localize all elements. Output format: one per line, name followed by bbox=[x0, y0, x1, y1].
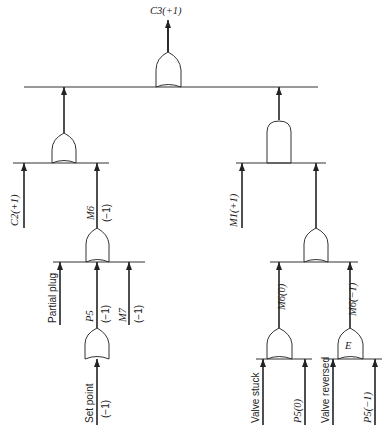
fault-tree-diagram: C3(+1) C2(+1) M6 (−1) Partial plug P5 (−… bbox=[0, 0, 386, 436]
m7-value-label: (−1) bbox=[133, 305, 144, 323]
partial-plug-label: Partial plug bbox=[47, 273, 58, 323]
p5-neg-label: P5(−1) bbox=[362, 392, 374, 424]
valve-stuck-label: Valve stuck bbox=[250, 372, 261, 423]
p5-value-label: (−1) bbox=[100, 305, 111, 323]
p5-or-gate bbox=[85, 328, 109, 359]
e-gate-label: E bbox=[344, 340, 352, 351]
right-mid-or-gate bbox=[304, 228, 328, 262]
m6-value-label: (−1) bbox=[101, 204, 112, 222]
p5-zero-label: P5(0) bbox=[292, 399, 304, 424]
valve-reversed-label: Valve reversed bbox=[320, 357, 331, 423]
c2-label: C2(+1) bbox=[9, 194, 21, 226]
set-point-label: Set point bbox=[84, 383, 95, 423]
m6-name-label: M6 bbox=[85, 205, 96, 221]
m6-zero-or-gate bbox=[267, 328, 292, 359]
right-and-gate bbox=[267, 121, 291, 163]
m7-name-label: M7 bbox=[117, 307, 128, 323]
left-or-gate bbox=[52, 133, 76, 163]
m1-label: M1(+1) bbox=[228, 193, 240, 228]
top-or-gate bbox=[156, 20, 181, 87]
p5-name-label: P5 bbox=[84, 310, 95, 323]
m6-zero-label: M6(0) bbox=[276, 283, 288, 311]
m6-or-gate bbox=[86, 228, 109, 262]
top-event-label: C3(+1) bbox=[150, 5, 182, 17]
m6-neg-label: M6(−1) bbox=[347, 282, 359, 317]
set-point-value-label: (−1) bbox=[100, 400, 111, 418]
